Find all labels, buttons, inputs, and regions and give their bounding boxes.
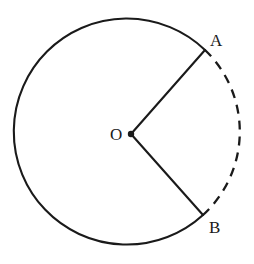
figure-root: A B O bbox=[0, 0, 254, 264]
center-label-o: O bbox=[110, 126, 122, 143]
center-point-dot bbox=[128, 131, 134, 137]
point-label-a: A bbox=[210, 32, 222, 49]
point-label-b: B bbox=[209, 219, 220, 236]
